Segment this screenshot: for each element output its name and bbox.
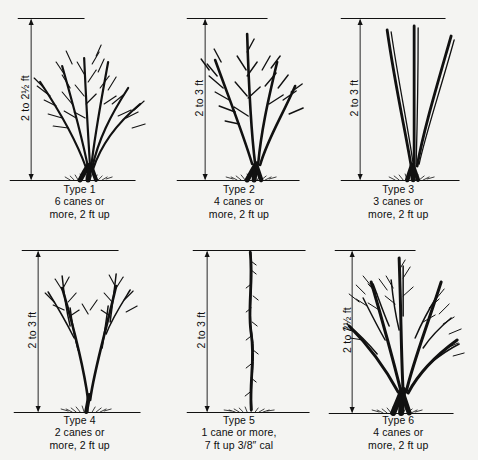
dimension-arrow-up bbox=[29, 19, 34, 25]
type-2-spec-line-2: more, 2 ft up bbox=[159, 208, 318, 220]
dimension-arrow-down bbox=[357, 174, 362, 180]
dimension-arrow-down bbox=[29, 174, 34, 180]
panel-row-bottom: 2 to 3 ft Type 4 2 canes or more, 2 ft u… bbox=[0, 230, 478, 460]
canes bbox=[387, 26, 451, 166]
canes bbox=[62, 286, 116, 400]
type-4-title: Type 4 bbox=[0, 414, 159, 426]
dimension-arrow-up bbox=[36, 251, 41, 257]
type-4-spec-line-1: 2 canes or bbox=[0, 426, 159, 438]
panel-type-1: 2 to 2½ ft Type 1 6 canes or more, 2 ft … bbox=[0, 0, 159, 230]
type-6-spec-line-1: 4 canes or bbox=[319, 426, 478, 438]
shrub-grade-types-figure: 2 to 2½ ft Type 1 6 canes or more, 2 ft … bbox=[0, 0, 478, 460]
type-2-caption: Type 2 4 canes or more, 2 ft up bbox=[159, 183, 318, 220]
type-3-caption: Type 3 3 canes or more, 2 ft up bbox=[319, 183, 478, 220]
panel-type-2: 2 to 3 ft Type 2 4 canes or more, 2 ft u… bbox=[159, 0, 318, 230]
dimension-arrow-down bbox=[203, 174, 208, 180]
type-1-title: Type 1 bbox=[0, 183, 159, 195]
dimension-arrow-down bbox=[349, 407, 354, 413]
panel-type-6: 2 to 2½ ft Type 6 4 canes or more, 2 ft … bbox=[319, 230, 478, 460]
type-3-spec-line-2: more, 2 ft up bbox=[319, 208, 478, 220]
panel-row-top: 2 to 2½ ft Type 1 6 canes or more, 2 ft … bbox=[0, 0, 478, 230]
type-1-spec-line-2: more, 2 ft up bbox=[0, 208, 159, 220]
type-6-height-label: 2 to 2½ ft bbox=[341, 296, 353, 364]
canes bbox=[40, 58, 140, 169]
type-3-height-label: 2 to 3 ft bbox=[348, 64, 360, 132]
type-1-spec-line-1: 6 canes or bbox=[0, 195, 159, 207]
type-5-height-label: 2 to 3 ft bbox=[195, 296, 207, 364]
twigs bbox=[201, 39, 303, 124]
grass-tuft bbox=[224, 407, 274, 412]
type-4-caption: Type 4 2 canes or more, 2 ft up bbox=[0, 414, 159, 451]
type-6-title: Type 6 bbox=[319, 414, 478, 426]
type-6-caption: Type 6 4 canes or more, 2 ft up bbox=[319, 414, 478, 451]
type-1-height-label: 2 to 2½ ft bbox=[19, 64, 31, 132]
type-2-height-label: 2 to 3 ft bbox=[193, 64, 205, 132]
dimension-arrow-down bbox=[205, 406, 210, 412]
type-1-caption: Type 1 6 canes or more, 2 ft up bbox=[0, 183, 159, 220]
dimension-arrow-down bbox=[36, 406, 41, 412]
type-4-height-label: 2 to 3 ft bbox=[26, 296, 38, 364]
branches bbox=[347, 266, 459, 364]
dimension-arrow-up bbox=[205, 251, 210, 257]
panel-type-4: 2 to 3 ft Type 4 2 canes or more, 2 ft u… bbox=[0, 230, 159, 460]
type-2-spec-line-1: 4 canes or bbox=[159, 195, 318, 207]
dimension-arrow-up bbox=[203, 19, 208, 25]
type-3-title: Type 3 bbox=[319, 183, 478, 195]
dimension-arrow-up bbox=[349, 251, 354, 257]
type-5-title: Type 5 bbox=[159, 414, 318, 426]
dimension-arrow-up bbox=[357, 19, 362, 25]
panel-type-3: 2 to 3 ft Type 3 3 canes or more, 2 ft u… bbox=[319, 0, 478, 230]
type-5-caption: Type 5 1 cane or more, 7 ft up 3/8″ cal bbox=[159, 414, 318, 451]
panel-type-5: 2 to 3 ft Type 5 1 cane or more, 7 ft up… bbox=[159, 230, 318, 460]
type-6-spec-line-2: more, 2 ft up bbox=[319, 439, 478, 451]
type-2-title: Type 2 bbox=[159, 183, 318, 195]
type-5-spec-line-1: 1 cane or more, bbox=[159, 426, 318, 438]
type-3-spec-line-1: 3 canes or bbox=[319, 195, 478, 207]
type-5-spec-line-2: 7 ft up 3/8″ cal bbox=[159, 439, 318, 451]
type-4-spec-line-2: more, 2 ft up bbox=[0, 439, 159, 451]
